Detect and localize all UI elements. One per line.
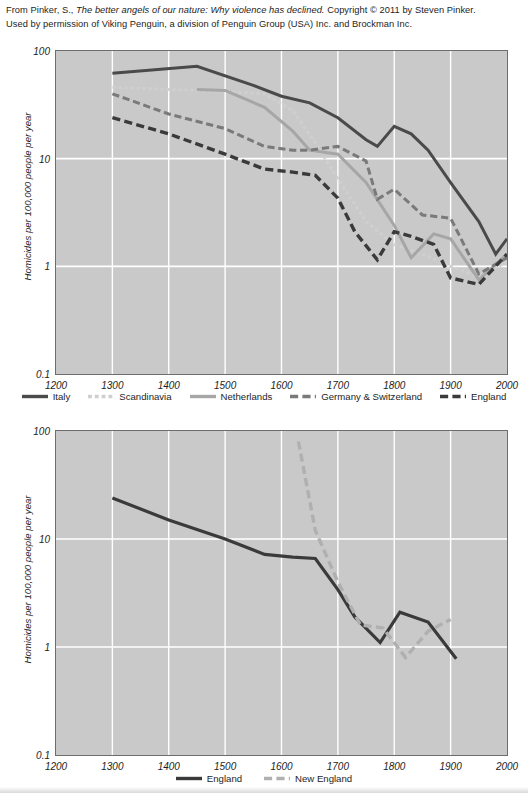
chart1-plot-area: 0.11101001200130014001500160017001800190… [55, 50, 508, 375]
chart1-x-tick-label: 1600 [270, 374, 292, 391]
legend-item-italy[interactable]: Italy [22, 391, 71, 402]
chart1-y-tick-label: 100 [33, 46, 56, 57]
chart2-canvas [56, 431, 507, 755]
chart1-x-tick-label: 1700 [327, 374, 349, 391]
chart2-x-tick-label: 1600 [270, 755, 292, 772]
chart1-y-axis-title: Homicides per 100,000 people per year [22, 82, 33, 312]
series-line-new-england [298, 441, 450, 657]
legend-swatch-icon [264, 774, 290, 783]
legend-item-england[interactable]: England [176, 773, 242, 784]
chart1-x-tick-label: 2000 [496, 374, 518, 391]
legend-swatch-icon [440, 392, 466, 401]
chart2-x-tick-label: 1300 [101, 755, 123, 772]
legend-label: Italy [53, 391, 71, 402]
series-line-netherlands [197, 89, 507, 279]
attribution-book-title: The better angels of our nature: Why vio… [76, 5, 324, 15]
legend-label: England [471, 391, 506, 402]
legend-item-england[interactable]: England [440, 391, 506, 402]
legend-label: England [207, 773, 242, 784]
chart2-x-tick-label: 1500 [214, 755, 236, 772]
chart2-plot-area: 0.11101001200130014001500160017001800190… [55, 430, 508, 756]
figure-england-newengland-homicide-rates: Homicides per 100,000 people per year 0.… [0, 414, 528, 793]
attribution-line1-pre: From Pinker, S., [6, 5, 76, 15]
series-line-england [112, 118, 507, 285]
chart2-y-tick-label: 10 [39, 534, 56, 545]
figure-europe-homicide-rates: Homicides per 100,000 people per year 0.… [0, 36, 528, 414]
series-line-england [112, 498, 456, 659]
chart1-x-tick-label: 1900 [440, 374, 462, 391]
chart1-y-tick-label: 1 [44, 261, 56, 272]
chart2-x-tick-label: 2000 [496, 755, 518, 772]
chart2-x-tick-label: 1800 [383, 755, 405, 772]
legend-swatch-icon [176, 774, 202, 783]
legend-swatch-icon [190, 392, 216, 401]
chart2-x-tick-label: 1900 [440, 755, 462, 772]
attribution-line2: Used by permission of Viking Penguin, a … [6, 19, 412, 29]
legend-swatch-icon [88, 392, 114, 401]
series-line-germany-switzerland [112, 94, 507, 274]
legend-label: New England [295, 773, 352, 784]
chart2-x-tick-label: 1400 [158, 755, 180, 772]
chart1-canvas [56, 51, 507, 374]
legend-label: Scandinavia [119, 391, 171, 402]
chart2-legend: EnglandNew England [0, 773, 528, 784]
series-line-italy [112, 66, 507, 254]
chart1-x-tick-label: 1400 [158, 374, 180, 391]
chart1-x-tick-label: 1800 [383, 374, 405, 391]
legend-item-new-england[interactable]: New England [264, 773, 352, 784]
chart2-y-axis-title: Homicides per 100,000 people per year [22, 465, 33, 695]
chart1-y-tick-label: 10 [39, 153, 56, 164]
page-edge-shadow [0, 787, 528, 793]
chart2-x-tick-label: 1200 [45, 755, 67, 772]
chart1-x-tick-label: 1500 [214, 374, 236, 391]
series-line-scandinavia [112, 87, 507, 276]
chart2-y-tick-label: 100 [33, 426, 56, 437]
chart2-y-tick-label: 1 [44, 642, 56, 653]
legend-swatch-icon [290, 392, 316, 401]
attribution-line1-post: Copyright © 2011 by Steven Pinker. [325, 5, 476, 15]
legend-label: Germany & Switzerland [321, 391, 422, 402]
legend-swatch-icon [22, 392, 48, 401]
legend-item-germany-switzerland[interactable]: Germany & Switzerland [290, 391, 422, 402]
legend-item-scandinavia[interactable]: Scandinavia [88, 391, 171, 402]
chart2-x-tick-label: 1700 [327, 755, 349, 772]
chart1-legend: ItalyScandinaviaNetherlandsGermany & Swi… [0, 391, 528, 402]
legend-label: Netherlands [221, 391, 273, 402]
legend-item-netherlands[interactable]: Netherlands [190, 391, 273, 402]
chart1-x-tick-label: 1200 [45, 374, 67, 391]
chart1-x-tick-label: 1300 [101, 374, 123, 391]
attribution-text: From Pinker, S., The better angels of ou… [6, 3, 522, 31]
